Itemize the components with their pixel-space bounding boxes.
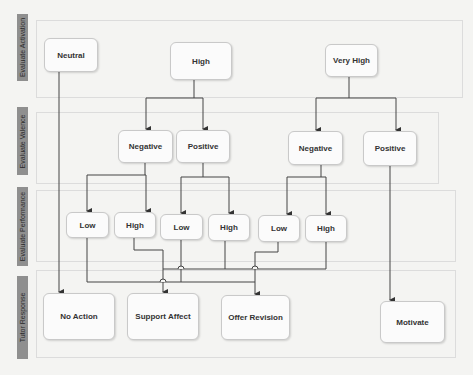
- node-low-negative-high[interactable]: Low: [66, 212, 109, 238]
- node-high[interactable]: High: [170, 42, 232, 80]
- edge-negative2-to-low3: [287, 165, 321, 214]
- node-label: High: [126, 221, 144, 230]
- edge-positive1-to-high2: [203, 177, 229, 213]
- node-label: Support Affect: [135, 312, 190, 321]
- node-label: Low: [80, 221, 96, 230]
- node-negative-high[interactable]: Negative: [118, 130, 173, 163]
- node-support-affect[interactable]: Support Affect: [127, 293, 199, 340]
- edge-veryhigh-to-negative: [316, 77, 349, 130]
- node-label: Negative: [299, 144, 332, 153]
- edge-high1-to-support-affect: [134, 238, 163, 292]
- node-low-negative-very-high[interactable]: Low: [258, 215, 300, 242]
- edge-veryhigh-to-positive: [349, 98, 396, 130]
- edge-negative2-to-high3: [321, 177, 326, 214]
- edge-low3-to-offer-revision: [255, 242, 278, 294]
- node-high-negative-high[interactable]: High: [114, 212, 156, 238]
- node-label: Neutral: [57, 51, 85, 60]
- edge-negative1-to-low1: [87, 163, 145, 211]
- line-hop: [252, 266, 258, 269]
- node-label: Motivate: [396, 318, 428, 327]
- node-very-high[interactable]: Very High: [325, 44, 378, 77]
- node-label: Offer Revision: [228, 313, 283, 322]
- node-label: Low: [174, 223, 190, 232]
- edge-negative1-to-high1: [145, 175, 146, 211]
- node-neutral[interactable]: Neutral: [44, 38, 98, 72]
- node-label: Positive: [188, 142, 219, 151]
- node-negative-very-high[interactable]: Negative: [288, 131, 343, 165]
- node-high-negative-very-high[interactable]: High: [305, 215, 347, 242]
- node-offer-revision[interactable]: Offer Revision: [221, 295, 290, 340]
- edge-low1-to-offer-revision: [87, 238, 255, 282]
- node-label: No Action: [60, 312, 97, 321]
- node-label: High: [317, 224, 335, 233]
- node-positive-high[interactable]: Positive: [176, 130, 230, 163]
- node-label: High: [220, 223, 238, 232]
- node-label: High: [192, 57, 210, 66]
- edge-positive1-to-low2: [181, 163, 203, 213]
- node-motivate[interactable]: Motivate: [380, 301, 445, 343]
- node-no-action[interactable]: No Action: [43, 293, 115, 340]
- line-hop: [160, 279, 166, 282]
- edge-high2-to-support-affect: [163, 241, 225, 269]
- line-hop: [178, 266, 184, 269]
- node-high-positive-high[interactable]: High: [208, 214, 250, 241]
- node-low-positive-high[interactable]: Low: [160, 214, 203, 240]
- edge-high3-to-support-affect: [225, 242, 326, 269]
- node-label: Very High: [333, 56, 370, 65]
- node-label: Negative: [129, 142, 162, 151]
- edge-high-to-negative: [146, 80, 194, 129]
- node-label: Positive: [375, 144, 406, 153]
- node-label: Low: [271, 224, 287, 233]
- node-positive-very-high[interactable]: Positive: [363, 131, 417, 166]
- edge-high-to-positive: [194, 98, 203, 129]
